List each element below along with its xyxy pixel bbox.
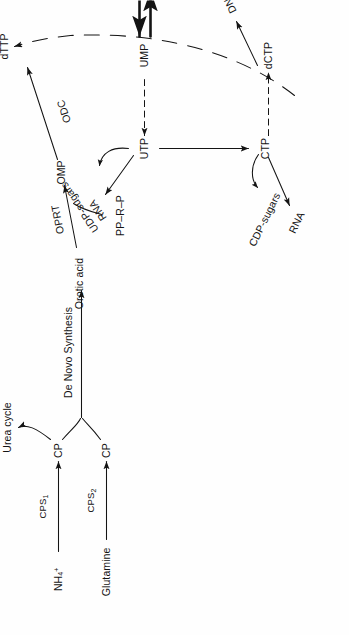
- label-urea-cycle: Urea cycle: [2, 402, 13, 453]
- arc-dctp-dttp: [14, 34, 294, 95]
- nh4-superscript: +: [52, 567, 59, 571]
- label-ctp: CTP: [260, 137, 271, 158]
- label-pprp: PP–R–P: [114, 195, 125, 236]
- label-orotic-acid: Orotic acid: [74, 257, 85, 308]
- label-utp: UTP: [139, 137, 150, 158]
- pathway-figure: NH4+ Glutamine CPS1 CPS2 CP CP Urea cycl…: [0, 0, 349, 635]
- label-cps1: CPS1: [37, 494, 48, 518]
- line-utp-rna: [105, 155, 133, 194]
- label-dctp: dCTP: [263, 41, 274, 68]
- nh4-text: NH: [51, 575, 63, 590]
- pathway-lines: [0, 0, 349, 635]
- curve-cp-merge-lower: [82, 418, 100, 439]
- label-glutamine: Glutamine: [101, 547, 112, 596]
- curve-cp-urea: [18, 426, 50, 439]
- label-omp: OMP: [56, 160, 67, 184]
- line-dctp-dna: [236, 21, 257, 65]
- label-ump: UMP: [139, 43, 150, 67]
- cps1-text: CPS: [36, 498, 47, 518]
- cps1-subscript: 1: [41, 494, 48, 498]
- label-de-novo-synthesis: De Novo Synthesis: [63, 307, 74, 398]
- pathway-canvas: NH4+ Glutamine CPS1 CPS2 CP CP Urea cycl…: [0, 0, 349, 635]
- line-omp-ump: [27, 67, 57, 159]
- curve-ctp-cdpsugars: [252, 154, 258, 187]
- curve-cp-merge-upper: [62, 418, 80, 439]
- cps2-subscript: 2: [89, 488, 96, 492]
- curve-utp-udpsugars: [99, 148, 128, 165]
- label-cps2: CPS2: [85, 488, 96, 512]
- cps2-text: CPS: [84, 492, 95, 512]
- label-cp-upper: CP: [53, 443, 64, 458]
- label-cp-lower: CP: [101, 443, 112, 458]
- label-dttp: dTTP: [0, 33, 9, 59]
